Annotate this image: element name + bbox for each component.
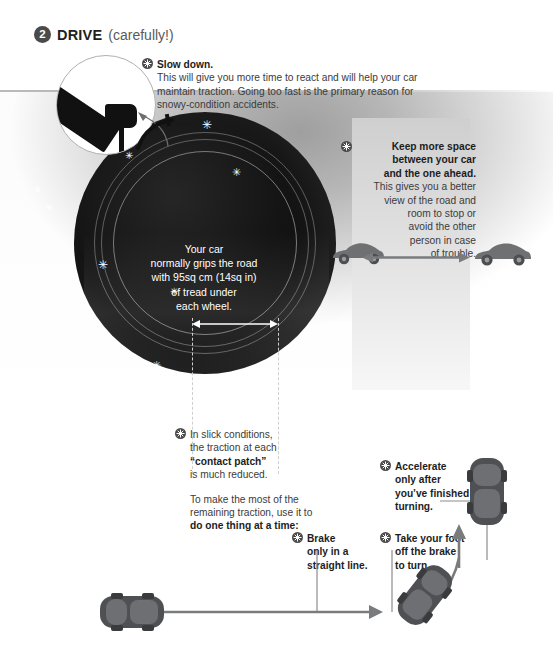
snowflake-bullet-icon xyxy=(341,141,352,152)
snowflake-bg-4: ✳ xyxy=(30,342,38,352)
page-title-text: DRIVE xyxy=(57,27,102,43)
car-top-view-finished-turn xyxy=(467,458,507,525)
page-title: 2 DRIVE (carefully!) xyxy=(34,26,174,43)
tire-valve-stem xyxy=(132,112,202,160)
contact-patch-width-arrow xyxy=(192,318,278,330)
callout-slow-down-body: This will give you more time to react an… xyxy=(157,71,434,111)
infographic-canvas: ✳ ✳ ✳ ✳ 2 DRIVE (carefully!) ✳ ✳ ✳ ✳ ✳ ✳… xyxy=(0,0,553,651)
snowflake-tire-1: ✳ xyxy=(202,119,212,131)
snowflake-bg-1: ✳ xyxy=(33,185,42,196)
callout-slow-down-heading: Slow down. xyxy=(157,58,213,71)
callout-keep-space-body-2: view of the road and xyxy=(356,194,476,207)
car-top-view-turning xyxy=(390,558,459,632)
tire-label-line-5: each wheel. xyxy=(104,299,304,313)
callout-keep-space-heading-2: between your car xyxy=(356,153,476,166)
callout-keep-space-body-1: This gives you a better xyxy=(356,180,476,193)
tire-label-line-3: with 95sq cm (14sq in) xyxy=(104,270,304,284)
snowflake-bullet-icon xyxy=(175,428,186,439)
tire-label-line-2: normally grips the road xyxy=(104,256,304,270)
tire-center-label: Your car normally grips the road with 95… xyxy=(104,242,304,313)
snowflake-bg-2: ✳ xyxy=(45,203,53,213)
following-distance-arrow xyxy=(362,252,470,263)
car-top-view-straight xyxy=(100,593,164,631)
snowflake-tire-6: ✳ xyxy=(152,360,161,371)
path-curve-arrowhead xyxy=(452,524,466,539)
callout-keep-space-body-3: room to stop or xyxy=(356,207,476,220)
tire-label-line-1: Your car xyxy=(104,242,304,256)
path-straight-arrowhead xyxy=(369,605,383,619)
tire-label-line-4: of tread under xyxy=(104,285,304,299)
snowflake-bg-3: ✳ xyxy=(52,282,61,293)
driving-path-diagram xyxy=(0,440,553,651)
callout-keep-space-heading-1: Keep more space xyxy=(392,140,476,153)
snowflake-tire-3: ✳ xyxy=(232,167,241,178)
callout-slow-down: Slow down. This will give you more time … xyxy=(142,58,434,112)
page-subtitle-text: (carefully!) xyxy=(108,27,173,43)
tire-figure: ✳ ✳ ✳ ✳ ✳ ✳ Your car normally grips the … xyxy=(74,112,336,412)
callout-keep-space-heading-3: and the one ahead. xyxy=(356,167,476,180)
step-number-badge: 2 xyxy=(34,26,51,43)
callout-keep-space-body-4: avoid the other xyxy=(356,220,476,233)
snowflake-bullet-icon xyxy=(142,58,153,69)
car-side-view-behind xyxy=(472,238,534,270)
